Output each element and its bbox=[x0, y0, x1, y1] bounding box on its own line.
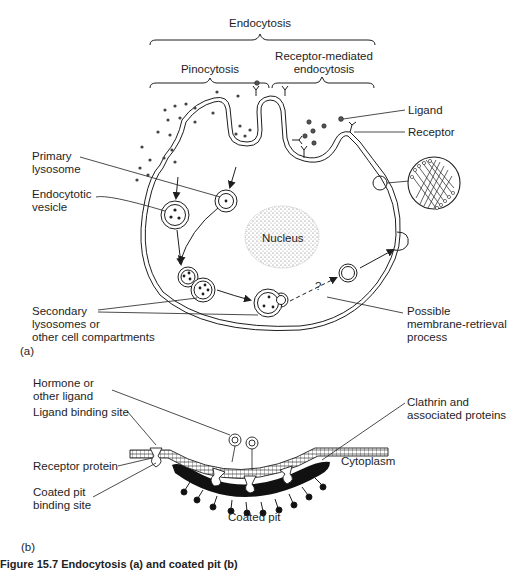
question-mark: ? bbox=[315, 280, 321, 293]
secondary-lysosomes-label-1: Secondary bbox=[32, 305, 87, 318]
secondary-lysosomes-label-3: other cell compartments bbox=[32, 331, 155, 344]
fusing-vesicles bbox=[178, 267, 215, 302]
hormone-label-1: Hormone or bbox=[33, 377, 94, 390]
secondary-lysosomes-label-2: lysosomes or bbox=[32, 318, 100, 331]
receptor-protein-label: Receptor protein bbox=[33, 460, 118, 473]
panel-a-label: (a) bbox=[20, 345, 34, 358]
coated-pit-diagram bbox=[130, 434, 388, 516]
cytoplasm-label: Cytoplasm bbox=[341, 455, 395, 468]
primary-lysosome bbox=[215, 190, 237, 212]
primary-lysosome-label-1: Primary bbox=[32, 150, 72, 163]
coated-pit-binding-label-2: binding site bbox=[33, 499, 91, 512]
receptor-mediated-label-2: endocytosis bbox=[274, 63, 374, 76]
endocytotic-vesicle bbox=[161, 201, 189, 229]
primary-lysosome-label-2: lysosome bbox=[32, 163, 81, 176]
retrieval-label-1: Possible bbox=[407, 305, 450, 318]
hormone-label-2: other ligand bbox=[33, 390, 93, 403]
retrieval-vesicle bbox=[339, 264, 357, 282]
receptors bbox=[253, 86, 356, 158]
endocytosis-label: Endocytosis bbox=[225, 17, 295, 30]
endocytotic-vesicle-label-2: vesicle bbox=[32, 201, 67, 214]
clathrin-label-2: associated proteins bbox=[407, 409, 506, 422]
clathrin-label-1: Clathrin and bbox=[407, 396, 469, 409]
ligand-binding-site-label: Ligand binding site bbox=[33, 406, 129, 419]
endocytotic-vesicle-label-1: Endocytotic bbox=[32, 188, 91, 201]
figure-caption: Figure 15.7 Endocytosis (a) and coated p… bbox=[0, 558, 238, 570]
receptor-mediated-label-1: Receptor-mediated bbox=[274, 50, 374, 63]
retrieval-label-3: process bbox=[407, 331, 447, 344]
secondary-lysosome bbox=[254, 289, 288, 317]
coated-pit-label: Coated pit bbox=[228, 511, 280, 524]
ligand-particles bbox=[255, 81, 344, 146]
receptor-label: Receptor bbox=[408, 126, 455, 139]
membrane-magnifier bbox=[373, 157, 460, 210]
nucleus-label: Nucleus bbox=[262, 232, 304, 245]
pinocytosis-label: Pinocytosis bbox=[170, 63, 250, 76]
panel-b-label: (b) bbox=[21, 541, 35, 554]
retrieval-label-2: membrane-retrieval bbox=[407, 318, 507, 331]
coated-pit-binding-label-1: Coated pit bbox=[33, 486, 85, 499]
ligand-label: Ligand bbox=[408, 104, 443, 117]
